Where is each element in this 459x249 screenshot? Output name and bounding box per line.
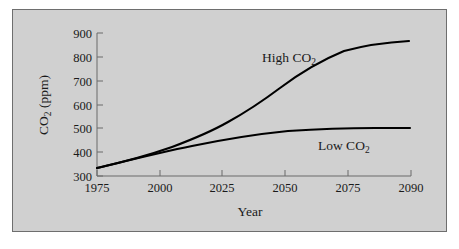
x-tick-label-2025: 2025 [210,181,235,195]
y-tick-labels: 900 800 700 600 500 400 300 [73,27,92,184]
x-tick-label-1975: 1975 [85,181,110,195]
series-label-high-co2: High CO2 [262,50,316,67]
series-label-low-co2: Low CO2 [318,138,370,155]
series-label-low-co2-sub: 2 [365,145,370,155]
series-label-low-co2-base: Low CO [318,138,365,153]
x-tick-label-2050: 2050 [273,181,298,195]
x-tick-label-2000: 2000 [148,181,173,195]
y-tick-label-700: 700 [73,75,92,89]
svg-text:CO2 (ppm): CO2 (ppm) [36,75,53,135]
x-axis-title: Year [238,204,263,219]
y-tick-marks [97,33,103,176]
x-tick-marks [97,170,411,176]
y-tick-label-500: 500 [73,122,92,136]
co2-projection-chart: 900 800 700 600 500 400 300 1975 2000 20… [0,0,459,249]
x-tick-label-2075: 2075 [336,181,361,195]
y-axis-title: CO2 (ppm) [36,75,53,135]
y-tick-label-600: 600 [73,99,92,113]
y-axis-title-unit: (ppm) [36,75,51,111]
y-axis-title-base: CO [36,116,51,135]
y-tick-label-400: 400 [73,146,92,160]
x-tick-labels: 1975 2000 2025 2050 2075 2090 [85,181,424,195]
y-tick-label-800: 800 [73,51,92,65]
series-label-high-co2-sub: 2 [311,57,316,67]
series-label-high-co2-base: High CO [262,50,311,65]
y-tick-label-900: 900 [73,27,92,41]
x-tick-label-2090: 2090 [399,181,424,195]
figure-root: 900 800 700 600 500 400 300 1975 2000 20… [0,0,459,249]
